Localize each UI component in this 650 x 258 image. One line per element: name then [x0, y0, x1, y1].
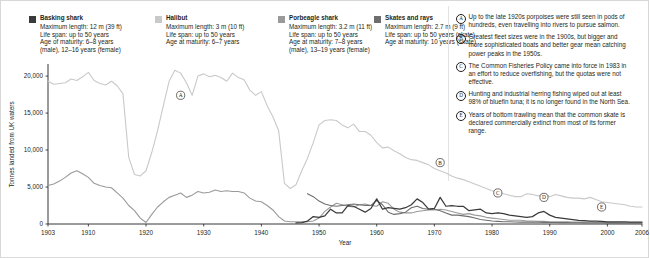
y-tick-label: 20,000 [24, 72, 44, 79]
y-tick-label: 15,000 [24, 109, 44, 116]
legend-item-basking-shark: Basking shark Maximum length: 12 m (39 f… [29, 14, 122, 53]
x-tick-label: 1970 [427, 229, 442, 236]
chart-marker-d: D [540, 193, 548, 201]
legend-detail: Age at maturity: 6–7 years [166, 38, 244, 46]
chart-axes [48, 64, 642, 224]
legend-detail: (male), 12–16 years (female) [40, 46, 122, 54]
series-line-porbeagle-shark [48, 171, 642, 223]
y-axis-title: Tonnes landed from UK waters [8, 101, 15, 187]
chart-canvas: 05,00010,00015,00020,000Tonnes landed fr… [1, 59, 650, 258]
x-tick-label: 1903 [41, 229, 56, 236]
svg-text:C: C [496, 190, 500, 196]
chart-marker-b: B [436, 159, 444, 167]
series-line-basking-shark [296, 197, 642, 223]
x-tick-label: 2006 [635, 229, 650, 236]
x-tick-label: 1930 [197, 229, 212, 236]
legend-item-halibut: Halibut Maximum length: 3 m (10 ft) Life… [155, 14, 244, 46]
legend-detail: Maximum length: 3.2 m (11 ft) [289, 23, 372, 31]
x-tick-label: 1950 [312, 229, 327, 236]
note-key-a: A [456, 14, 466, 24]
legend-detail: Life span: up to 50 years [289, 31, 372, 39]
legend-detail: Maximum length: 3 m (10 ft) [166, 23, 244, 31]
x-tick-label: 1990 [543, 229, 558, 236]
note-text-b: Greatest fleet sizes were in the 1900s, … [469, 33, 632, 57]
x-tick-label: 1920 [139, 229, 154, 236]
line-chart: 05,00010,00015,00020,000Tonnes landed fr… [1, 59, 650, 258]
legend-label-basking-shark: Basking shark [40, 14, 83, 22]
x-tick-label: 1980 [485, 229, 500, 236]
y-tick-label: 0 [39, 220, 43, 227]
note-b: B Greatest fleet sizes were in the 1900s… [456, 33, 631, 57]
legend-detail: Age at maturity: 7–8 years [289, 38, 372, 46]
chart-marker-a: A [177, 91, 185, 99]
x-tick-label: 1960 [370, 229, 385, 236]
note-text-a: Up to the late 1920s porpoises were stil… [469, 13, 632, 29]
legend-swatch-porbeagle-shark [278, 16, 285, 23]
chart-marker-c: C [494, 189, 502, 197]
y-tick-label: 5,000 [27, 183, 43, 190]
legend-label-skates-and-rays: Skates and rays [385, 14, 433, 22]
svg-text:A: A [179, 92, 183, 98]
y-tick-label: 10,000 [24, 146, 44, 153]
x-tick-label: 2000 [600, 229, 615, 236]
x-tick-label: 1940 [254, 229, 269, 236]
x-axis-title: Year [339, 239, 352, 246]
legend-detail: Age of maturity: 6–8 years [40, 38, 122, 46]
note-key-b: B [456, 34, 466, 44]
legend-detail: Maximum length: 12 m (39 ft) [40, 23, 122, 31]
legend-detail: Life span: up to 50 years [40, 31, 122, 39]
x-tick-label: 1910 [81, 229, 96, 236]
svg-text:D: D [542, 194, 546, 200]
chart-legend: Basking shark Maximum length: 12 m (39 f… [29, 14, 449, 62]
chart-marker-e: E [598, 203, 606, 211]
svg-text:B: B [438, 160, 442, 166]
legend-item-porbeagle-shark: Porbeagle shark Maximum length: 3.2 m (1… [278, 14, 372, 53]
legend-label-halibut: Halibut [166, 14, 187, 22]
legend-detail: (male), 13–19 years (female) [289, 46, 372, 54]
series-line-halibut [48, 70, 642, 207]
legend-label-porbeagle-shark: Porbeagle shark [289, 14, 338, 22]
legend-swatch-basking-shark [29, 16, 36, 23]
legend-detail: Life span: up to 50 years [166, 31, 244, 39]
note-a: A Up to the late 1920s porpoises were st… [456, 13, 631, 29]
legend-swatch-skates-and-rays [374, 16, 381, 23]
legend-swatch-halibut [155, 16, 162, 23]
